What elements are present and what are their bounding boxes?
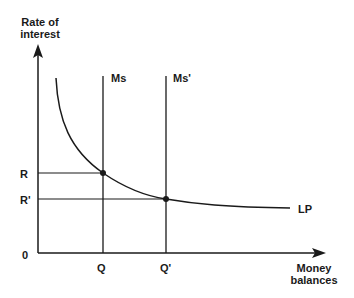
y-axis-label-line1: Rate of <box>14 16 66 28</box>
q-label: Q <box>97 262 106 274</box>
x-axis-label-line1: Money <box>286 262 342 274</box>
equilibrium-point-r <box>100 170 106 176</box>
lp-curve <box>56 78 290 208</box>
q-prime-label: Q' <box>160 262 171 274</box>
y-axis-label-line2: interest <box>14 28 66 40</box>
lp-label: LP <box>298 203 312 215</box>
equilibrium-point-r-prime <box>163 196 169 202</box>
y-axis-label: Rate of interest <box>14 16 66 40</box>
r-label: R <box>20 168 28 180</box>
x-axis-label: Money balances <box>286 262 342 286</box>
origin-label: 0 <box>22 249 28 261</box>
diagram-canvas <box>0 0 354 298</box>
ms-label: Ms <box>111 72 126 84</box>
r-prime-label: R' <box>20 194 31 206</box>
ms-prime-label: Ms' <box>173 72 191 84</box>
x-axis-label-line2: balances <box>286 274 342 286</box>
